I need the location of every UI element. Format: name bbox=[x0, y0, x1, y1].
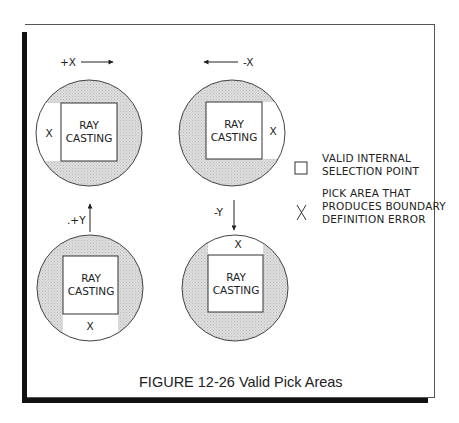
error-marker: X bbox=[86, 320, 93, 332]
legend-text-line: DEFINITION ERROR bbox=[322, 213, 446, 226]
legend-square-icon bbox=[295, 162, 307, 174]
panel-minus-y: -Y RAY CASTING X bbox=[182, 200, 288, 341]
ray-casting-label: RAY bbox=[226, 271, 246, 283]
legend-x-icon bbox=[297, 205, 306, 220]
ray-casting-label: CASTING bbox=[213, 284, 260, 296]
legend-item-error: PICK AREA THAT PRODUCES BOUNDARY DEFINIT… bbox=[322, 187, 446, 226]
legend-text-line: VALID INTERNAL bbox=[322, 152, 419, 165]
direction-label-plus-x: +X bbox=[60, 56, 76, 68]
direction-label-minus-x: -X bbox=[243, 56, 253, 68]
legend-text-line: SELECTION POINT bbox=[322, 165, 419, 178]
error-marker: X bbox=[45, 127, 52, 139]
ray-casting-label: CASTING bbox=[211, 131, 258, 143]
legend-text-line: PRODUCES BOUNDARY bbox=[322, 200, 446, 213]
error-marker: X bbox=[234, 238, 241, 250]
ray-casting-label: RAY bbox=[81, 272, 101, 284]
ray-casting-label: CASTING bbox=[68, 285, 115, 297]
legend-text-line: PICK AREA THAT bbox=[322, 187, 446, 200]
error-band bbox=[262, 102, 292, 159]
figure-caption: FIGURE 12-26 Valid Pick Areas bbox=[139, 374, 343, 390]
ray-casting-label: CASTING bbox=[66, 132, 113, 144]
panel-plus-y: .+Y RAY CASTING X bbox=[37, 204, 143, 344]
legend-item-valid: VALID INTERNAL SELECTION POINT bbox=[322, 152, 419, 178]
panel-plus-x: +X RAY CASTING X bbox=[36, 56, 142, 186]
ray-casting-label: RAY bbox=[79, 119, 99, 131]
error-marker: X bbox=[269, 125, 276, 137]
panel-minus-x: -X RAY CASTING X bbox=[179, 56, 292, 186]
direction-label-plus-y: .+Y bbox=[67, 214, 86, 226]
ray-casting-label: RAY bbox=[224, 118, 244, 130]
direction-label-minus-y: -Y bbox=[214, 206, 224, 218]
